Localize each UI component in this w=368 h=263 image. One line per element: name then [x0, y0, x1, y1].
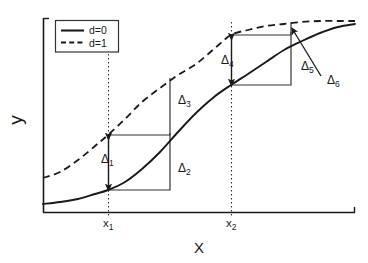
legend-label-d0: d=0 — [89, 24, 107, 36]
y-axis-label: y — [5, 115, 26, 125]
delta-subscript-3: 3 — [186, 99, 191, 109]
step-bracket-delta2 — [108, 133, 170, 190]
delta-label-3: Δ3 — [178, 93, 191, 109]
delta-label-2: Δ2 — [178, 161, 191, 177]
tick-label-x1: x1 — [103, 217, 114, 232]
x-tick-labels-group: x1 x2 — [103, 217, 237, 232]
delta-labels-group: Δ1Δ2Δ3Δ4Δ5Δ6 — [101, 53, 340, 177]
legend-box — [56, 21, 119, 53]
delta-glyph-2: Δ — [178, 161, 186, 175]
tick-label-x2: x2 — [226, 217, 237, 232]
tick-label-x2-sub: 2 — [232, 222, 237, 232]
delta-subscript-6: 6 — [335, 79, 340, 89]
sigmoid-delta-decomposition-chart: d=0 d=1 y X x1 x2 Δ1Δ2Δ3Δ4Δ5Δ6 — [0, 0, 368, 263]
delta-label-1: Δ1 — [101, 152, 114, 168]
delta-glyph-5: Δ — [301, 59, 309, 73]
legend-label-d1: d=1 — [89, 37, 107, 49]
legend[interactable]: d=0 d=1 — [56, 21, 119, 53]
delta-label-6: Δ6 — [327, 73, 340, 89]
x-axis-label: X — [194, 239, 204, 256]
delta-glyph-3: Δ — [178, 93, 186, 107]
gap-arrows-group — [109, 30, 322, 188]
delta-glyph-1: Δ — [101, 152, 109, 166]
delta-subscript-2: 2 — [186, 167, 191, 177]
delta-subscript-1: 1 — [109, 158, 114, 168]
step-bracket-delta5 — [231, 32, 291, 85]
tick-label-x1-sub: 1 — [109, 222, 114, 232]
delta-subscript-4: 4 — [229, 59, 234, 69]
figure-canvas: d=0 d=1 y X x1 x2 Δ1Δ2Δ3Δ4Δ5Δ6 — [0, 0, 368, 263]
delta-subscript-5: 5 — [309, 65, 314, 75]
delta-glyph-6: Δ — [327, 73, 335, 87]
delta-glyph-4: Δ — [221, 53, 229, 67]
step-brackets-group — [108, 22, 291, 190]
